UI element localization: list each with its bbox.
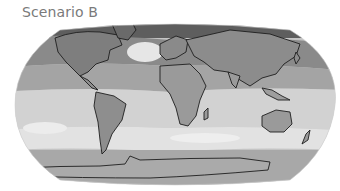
- world-map: [0, 0, 340, 191]
